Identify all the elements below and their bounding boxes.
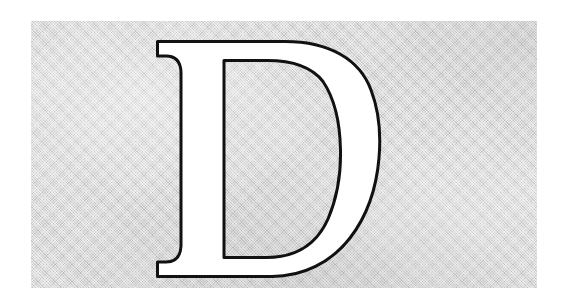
textured-gray-panel — [31, 21, 537, 288]
illustration-canvas: D Large outlined serif capital letter D … — [0, 0, 563, 308]
